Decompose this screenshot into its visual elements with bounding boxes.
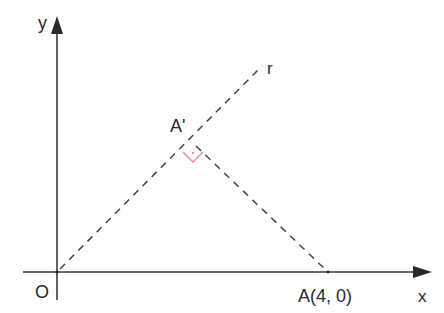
origin-point xyxy=(55,270,58,273)
point-a xyxy=(327,271,330,274)
perpendicular-segment xyxy=(196,146,327,271)
point-a-label: A(4, 0) xyxy=(298,286,352,306)
line-r xyxy=(60,66,262,269)
right-angle-dot-icon xyxy=(192,152,194,154)
line-r-label: r xyxy=(267,59,273,78)
x-axis-label: x xyxy=(418,287,427,306)
y-axis-label: y xyxy=(38,13,47,33)
origin-label: O xyxy=(35,282,49,302)
y-axis-arrow-icon xyxy=(51,16,63,34)
diagram-canvas: y x O A(4, 0) A' r xyxy=(0,0,444,313)
x-axis-arrow-icon xyxy=(413,266,432,278)
point-a-prime-label: A' xyxy=(170,116,185,136)
